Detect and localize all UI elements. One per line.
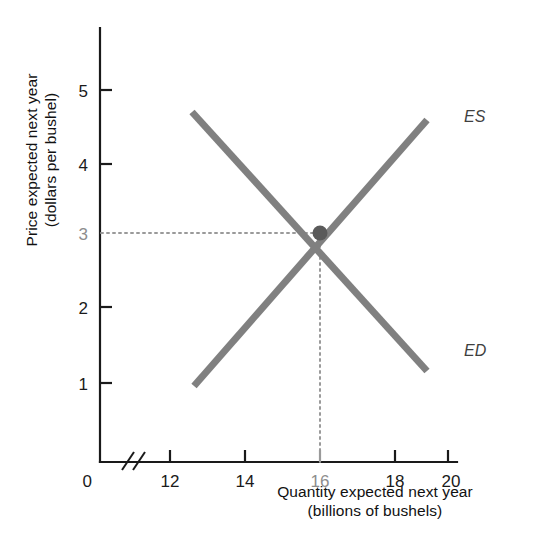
origin-label: 0	[83, 472, 92, 491]
y-tick-label-5: 5	[79, 82, 88, 101]
x-tick-label-16: 16	[311, 472, 330, 491]
curve-expected-supply	[194, 120, 427, 386]
plot-area: 5 4 3 2 1 0 12 14 16 18 20 ES ED	[0, 0, 545, 543]
y-tick-label-2: 2	[79, 299, 88, 318]
y-tick-label-3: 3	[79, 225, 88, 244]
x-tick-label-14: 14	[236, 472, 255, 491]
x-tick-label-12: 12	[161, 472, 180, 491]
y-tick-label-4: 4	[79, 156, 88, 175]
x-tick-label-20: 20	[442, 472, 461, 491]
y-tick-label-1: 1	[79, 375, 88, 394]
curve-label-ed: ED	[464, 342, 487, 359]
curve-label-es: ES	[464, 108, 486, 125]
curve-expected-demand	[192, 112, 427, 371]
y-tick-marks	[100, 90, 112, 383]
x-tick-marks	[170, 450, 448, 462]
supply-demand-chart: Price expected next year (dollars per bu…	[0, 0, 545, 543]
x-tick-label-18: 18	[386, 472, 405, 491]
equilibrium-point-marker	[313, 226, 328, 241]
